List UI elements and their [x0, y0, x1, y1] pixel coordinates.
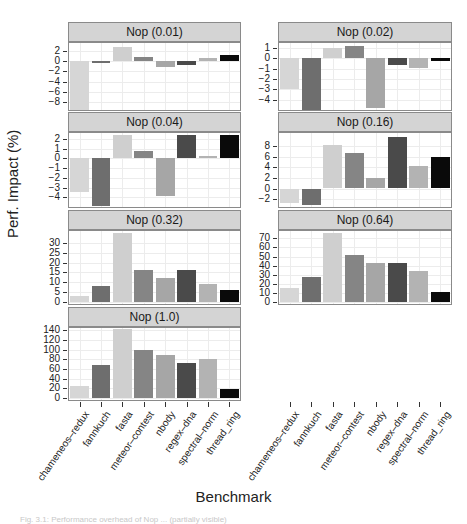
bar-regex-dna: [388, 137, 407, 189]
y-tick-mark: [273, 167, 277, 168]
y-tick-mark: [63, 302, 67, 303]
facet-title: Nop (0.32): [68, 210, 241, 230]
bar-fannkuch: [92, 365, 111, 398]
y-tick-mark: [273, 302, 277, 303]
y-tick-mark: [63, 330, 67, 331]
y-tick-mark: [273, 189, 277, 190]
y-tick-mark: [63, 398, 67, 399]
bar-spectral-norm: [409, 166, 428, 188]
facet-panel: Nop (0.02): [278, 22, 452, 111]
x-tick-mark: [397, 402, 398, 407]
y-tick-label: 0: [242, 184, 270, 194]
bar-meteor-contest: [345, 46, 364, 58]
facet-panel: Nop (0.32): [68, 210, 241, 305]
x-tick-mark: [333, 402, 334, 407]
bar-chameneos-redux: [70, 386, 89, 398]
bar-thread_ring: [431, 157, 450, 189]
bar-spectral-norm: [199, 156, 218, 158]
bar-chameneos-redux: [70, 61, 89, 110]
bar-spectral-norm: [199, 284, 218, 302]
facet-title: Nop (1.0): [68, 307, 241, 327]
y-tick-mark: [63, 359, 67, 360]
x-tick-mark: [101, 402, 102, 407]
y-tick-mark: [63, 350, 67, 351]
y-tick-mark: [63, 139, 67, 140]
y-tick-mark: [273, 100, 277, 101]
plot-area: [278, 132, 452, 208]
y-tick-mark: [63, 158, 67, 159]
bar-nbody: [156, 158, 175, 196]
bar-spectral-norm: [409, 58, 428, 67]
gridline-horizontal: [69, 350, 240, 351]
x-tick-mark: [419, 402, 420, 407]
x-tick-label: chameneos–redux: [35, 409, 91, 483]
y-tick-label: −2: [242, 194, 270, 204]
y-tick-mark: [63, 51, 67, 52]
bar-chameneos-redux: [70, 158, 89, 192]
gridline-horizontal: [69, 139, 240, 140]
gridline-horizontal: [279, 146, 451, 147]
y-tick-mark: [63, 282, 67, 283]
facet-title: Nop (0.01): [68, 22, 241, 42]
facet-title: Nop (0.02): [278, 22, 452, 42]
bar-fannkuch: [302, 277, 321, 303]
bar-meteor-contest: [345, 255, 364, 302]
y-tick-mark: [63, 178, 67, 179]
gridline-horizontal: [69, 330, 240, 331]
y-tick-mark: [273, 178, 277, 179]
x-tick-mark: [80, 402, 81, 407]
bar-fannkuch: [302, 189, 321, 206]
gridline-vertical: [208, 43, 209, 110]
bar-chameneos-redux: [280, 58, 299, 89]
y-tick-mark: [63, 82, 67, 83]
y-tick-mark: [273, 58, 277, 59]
facet-panel: Nop (0.01): [68, 22, 241, 111]
gridline-vertical: [80, 231, 81, 304]
bar-spectral-norm: [199, 58, 218, 61]
gridline-horizontal: [279, 48, 451, 49]
gridline-vertical: [101, 43, 102, 110]
bar-meteor-contest: [134, 350, 153, 398]
bar-nbody: [156, 61, 175, 67]
x-tick-mark: [290, 402, 291, 407]
y-tick-label: −8: [32, 97, 60, 107]
gridline-vertical: [144, 43, 145, 110]
y-tick-mark: [63, 272, 67, 273]
bar-regex-dna: [177, 270, 196, 302]
y-tick-mark: [273, 275, 277, 276]
y-tick-mark: [273, 266, 277, 267]
plot-area: [68, 132, 241, 208]
gridline-horizontal: [69, 272, 240, 273]
y-tick-mark: [273, 79, 277, 80]
y-tick-mark: [273, 146, 277, 147]
bar-thread_ring: [220, 55, 239, 61]
gridline-vertical: [208, 133, 209, 207]
plot-area: [68, 230, 241, 305]
y-tick-mark: [63, 92, 67, 93]
y-tick-mark: [63, 243, 67, 244]
gridline-horizontal: [69, 71, 240, 72]
y-tick-label: −3: [242, 84, 270, 94]
facet-panel: Nop (1.0): [68, 307, 241, 401]
bar-thread_ring: [431, 292, 450, 302]
bar-thread_ring: [220, 389, 239, 398]
bar-thread_ring: [431, 58, 450, 60]
gridline-vertical: [229, 43, 230, 110]
facet-panel: Nop (0.16): [278, 112, 452, 208]
y-tick-mark: [63, 379, 67, 380]
bar-spectral-norm: [409, 271, 428, 302]
gridline-horizontal: [279, 157, 451, 158]
bar-regex-dna: [177, 135, 196, 158]
x-tick-mark: [376, 402, 377, 407]
facet-title: Nop (0.04): [68, 112, 241, 132]
bar-fasta: [323, 48, 342, 58]
gridline-horizontal: [279, 266, 451, 267]
y-tick-label: −2: [32, 66, 60, 76]
plot-area: [68, 327, 241, 401]
x-tick-mark: [208, 402, 209, 407]
plot-area: [278, 42, 452, 111]
x-tick-mark: [354, 402, 355, 407]
x-tick-mark: [165, 402, 166, 407]
y-tick-mark: [273, 247, 277, 248]
bar-meteor-contest: [134, 57, 153, 61]
